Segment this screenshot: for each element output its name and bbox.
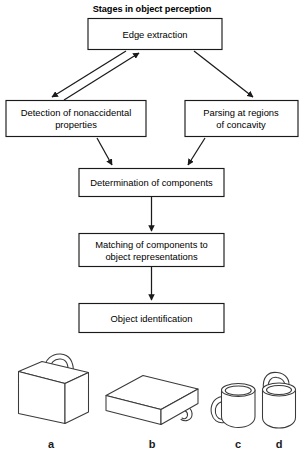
object-label-a: a (48, 438, 55, 450)
object-flat-case: b (106, 376, 198, 451)
object-briefcase: a (19, 354, 89, 450)
object-label-d: d (276, 438, 283, 450)
object-mug: c (211, 384, 255, 451)
object-illustrations: a b c (0, 0, 304, 457)
object-label-c: c (235, 438, 241, 450)
figure-root: Stages in object perception Edge extract… (0, 0, 304, 457)
object-label-b: b (149, 438, 156, 450)
object-pail: d (263, 372, 296, 450)
